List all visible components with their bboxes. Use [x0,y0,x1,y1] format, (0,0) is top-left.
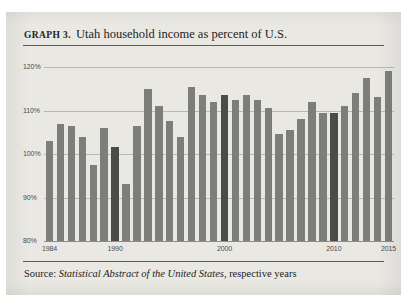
bar-2002 [243,95,250,241]
bar-1996 [177,137,184,241]
bar-2011 [341,106,348,241]
source-divider [23,261,384,262]
bar-1993 [144,89,151,241]
bar-2003 [254,100,261,241]
bar-1995 [166,121,173,241]
chart-plot-area: 80%90%100%110%120% 19841990200020102015 [23,56,384,248]
figure-panel: GRAPH 3.Utah household income as percent… [6,12,401,295]
bar-1984 [46,141,53,241]
caption-divider-top [23,45,384,46]
bar-1985 [57,124,64,241]
y-axis-tick-label: 120% [23,63,42,70]
bar-2012 [352,93,359,241]
figure-source-note: Source: Statistical Abstract of the Unit… [24,268,384,284]
source-suffix: , respective years [224,268,297,279]
x-axis-tick-label: 2010 [326,245,341,252]
bar-2009 [319,113,326,241]
bar-1986 [68,126,75,241]
bar-1999 [210,102,217,241]
bar-2006 [286,130,293,241]
y-axis-tick-label: 100% [23,150,42,157]
x-axis-tick-label: 1990 [108,245,123,252]
bar-1990 [111,147,118,241]
bar-2013 [363,78,370,241]
source-publication-title: Statistical Abstract of the United State… [59,268,224,279]
bar-2015 [385,71,392,241]
source-prefix: Source: [24,268,56,279]
bar-2001 [232,100,239,241]
bar-1992 [133,126,140,241]
bar-1988 [90,165,97,241]
bar-1998 [199,95,206,241]
bar-1994 [155,106,162,241]
bar-2004 [265,108,272,241]
bar-1989 [100,128,107,241]
chart-bars [44,56,394,248]
bar-2005 [275,134,282,241]
y-axis-tick-label: 90% [23,194,42,201]
x-axis-tick-label: 2000 [217,245,232,252]
bar-2000 [221,95,228,241]
bar-1997 [188,87,195,241]
x-axis-tick-label: 2015 [381,245,396,252]
bar-1991 [122,184,129,241]
bar-1987 [79,137,86,241]
x-axis-tick-label: 1984 [42,245,57,252]
graph-number-label: GRAPH 3. [24,30,71,40]
y-axis-tick-label: 110% [23,107,42,114]
bar-2007 [297,119,304,241]
bar-2014 [374,97,381,241]
y-axis-tick-label: 80% [23,237,42,244]
figure-caption: GRAPH 3.Utah household income as percent… [24,24,384,42]
bar-2010 [330,113,337,241]
page-title: Utah household income as percent of U.S. [76,27,287,41]
chart-x-axis-labels: 19841990200020102015 [44,245,394,259]
bar-2008 [308,102,315,241]
